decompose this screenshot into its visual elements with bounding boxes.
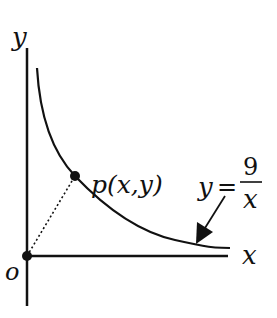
diagram-canvas: y x o p(x,y) y = 9 x [0,0,277,318]
equation-denominator: x [243,184,258,214]
arrow-head-icon [196,222,213,244]
origin-label: o [5,258,19,286]
origin-dot [22,251,32,261]
point-p-dot [70,171,80,181]
equation-equals: = [217,173,237,201]
equation-numerator: 9 [243,153,258,181]
x-axis-label: x [242,240,257,270]
equation-lhs: y [197,172,213,202]
y-axis-label: y [11,22,27,52]
dotted-segment-op [27,176,75,256]
hyperbola-curve [37,68,230,248]
point-p-label: p(x,y) [91,170,163,199]
